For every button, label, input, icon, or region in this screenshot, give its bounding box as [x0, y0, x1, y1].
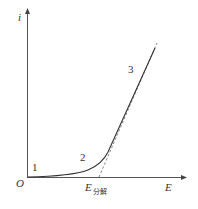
chart-canvas	[0, 0, 198, 209]
region-2-label: 2	[80, 152, 86, 163]
decomposition-potential-label: E分解	[85, 182, 107, 193]
decomposition-subscript: 分解	[93, 188, 107, 196]
region-3-label: 3	[128, 64, 134, 75]
y-axis-label: i	[18, 12, 21, 23]
origin-label: O	[16, 178, 24, 189]
region-1-label: 1	[32, 162, 38, 173]
decomposition-potential-symbol: E	[85, 181, 92, 193]
x-axis-label: E	[165, 182, 172, 193]
i-e-curve	[28, 48, 156, 177]
